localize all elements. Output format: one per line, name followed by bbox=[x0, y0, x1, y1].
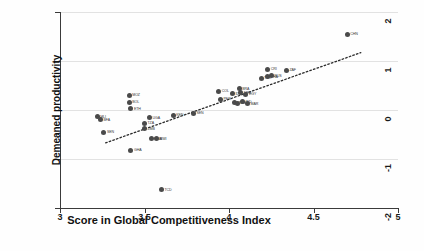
data-point bbox=[269, 73, 274, 78]
data-point-label: ZAF bbox=[289, 68, 296, 72]
data-point bbox=[101, 130, 106, 135]
data-point-label: COL bbox=[222, 89, 229, 93]
data-point bbox=[142, 121, 147, 126]
data-point-label: SEN bbox=[107, 130, 114, 134]
scatter-chart-figure: 210-1-2 33.544.55 MLIBFASENMOZBOLETHGHAT… bbox=[0, 0, 424, 251]
data-point bbox=[218, 97, 223, 102]
plot-area: 210-1-2 33.544.55 MLIBFASENMOZBOLETHGHAT… bbox=[60, 12, 398, 208]
gridline-y bbox=[60, 110, 398, 111]
data-point bbox=[127, 93, 132, 98]
data-point bbox=[245, 101, 250, 106]
data-point-label: RUS bbox=[274, 74, 281, 78]
data-point-label: SEN bbox=[197, 111, 204, 115]
data-point bbox=[265, 67, 270, 72]
data-point bbox=[191, 111, 196, 116]
data-point bbox=[216, 89, 221, 94]
data-point-label: TZA bbox=[148, 121, 155, 125]
data-point-label: EGY bbox=[249, 92, 256, 96]
data-point-label: PER bbox=[224, 97, 231, 101]
data-point-label: CRI bbox=[271, 67, 277, 71]
data-point-label: TCD bbox=[164, 188, 171, 192]
gridline-y bbox=[60, 12, 398, 13]
data-point bbox=[345, 32, 350, 37]
y-axis-title: Demeaned productivity bbox=[51, 55, 62, 166]
data-point bbox=[128, 148, 133, 153]
y-tick-label: -1 bbox=[383, 158, 393, 178]
gridline-y bbox=[60, 61, 398, 62]
data-point bbox=[98, 117, 103, 122]
data-point-label: MWI bbox=[159, 137, 166, 141]
y-tick-label: 1 bbox=[383, 60, 393, 80]
data-point-label: ZMB bbox=[148, 127, 155, 131]
data-point bbox=[127, 100, 132, 105]
data-point-label: GHA bbox=[134, 148, 142, 152]
data-point-label: BFA bbox=[104, 118, 111, 122]
x-tick-label: 4.5 bbox=[299, 212, 329, 222]
data-point bbox=[147, 115, 152, 120]
data-point bbox=[243, 92, 248, 97]
x-tick-label: 5 bbox=[383, 212, 413, 222]
data-point-label: CHN bbox=[350, 32, 358, 36]
x-axis-line bbox=[60, 208, 398, 209]
data-point bbox=[149, 136, 154, 141]
data-point-label: MAR bbox=[251, 102, 259, 106]
gridline-y bbox=[60, 159, 398, 160]
data-point bbox=[159, 187, 164, 192]
x-axis-title: Score in Global Competitiveness Index bbox=[67, 214, 271, 226]
data-point-label: MOZ bbox=[132, 93, 140, 97]
data-point bbox=[284, 68, 289, 73]
data-point-label: ETH bbox=[134, 107, 141, 111]
data-point bbox=[171, 113, 176, 118]
data-point bbox=[230, 91, 235, 96]
data-point-label: BOL bbox=[132, 100, 139, 104]
y-tick-label: 0 bbox=[383, 109, 393, 129]
y-tick-label: 2 bbox=[383, 11, 393, 31]
data-point bbox=[259, 76, 264, 81]
data-point bbox=[142, 126, 147, 131]
data-point-label: UGA bbox=[153, 116, 161, 120]
data-point-label: KEN bbox=[176, 113, 183, 117]
